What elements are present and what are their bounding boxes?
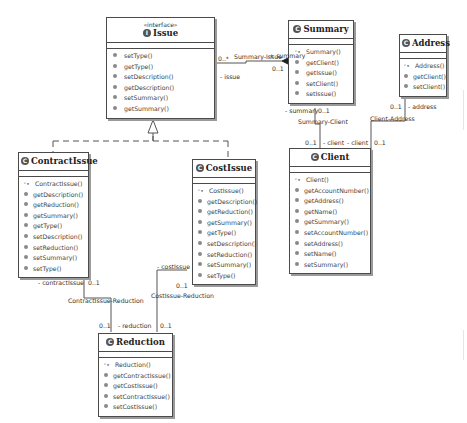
public-method-icon <box>24 202 28 206</box>
class-costissue[interactable]: CCostIssue ᶜ•CostIssue() getDescription(… <box>192 159 256 285</box>
public-method-icon <box>198 209 202 213</box>
operations-compartment: ᶜ•CostIssue() getDescription() getReduct… <box>193 184 255 284</box>
class-contractissue[interactable]: CContractIssue ᶜ•ContractIssue() getDesc… <box>18 152 89 278</box>
constructor: ᶜ•ContractIssue() <box>24 179 88 190</box>
operation: setClient() <box>295 79 353 90</box>
summary-client-client-mult: 0..1 <box>305 139 317 146</box>
operation: setSummary() <box>113 93 214 104</box>
public-method-icon <box>198 230 202 234</box>
contractissue-reduction-reduction-mult: 0..1 <box>99 322 111 329</box>
public-method-icon <box>113 85 117 89</box>
client-address-address-role: - address <box>408 103 437 110</box>
operation: setClient() <box>404 82 446 93</box>
public-method-icon <box>24 213 28 217</box>
class-badge-icon: C <box>311 153 319 161</box>
costissue-role-label: - costIssue <box>157 263 190 270</box>
public-method-icon <box>24 245 28 249</box>
operation: getAddress() <box>295 196 370 207</box>
class-client-header: CClient <box>290 149 370 167</box>
operation: setSummary() <box>24 253 88 264</box>
operation: getDescription() <box>24 190 88 201</box>
operation: setReduction() <box>24 243 88 254</box>
public-method-icon <box>295 91 299 95</box>
public-method-icon <box>24 223 28 227</box>
public-method-icon <box>24 255 28 259</box>
operation: getDescription() <box>198 197 255 208</box>
constructor-icon: ᶜ• <box>404 61 410 72</box>
class-name: CCostIssue <box>195 163 253 174</box>
public-method-icon <box>104 383 108 387</box>
public-method-icon <box>198 273 202 277</box>
class-name: CSummary <box>291 24 351 35</box>
class-client[interactable]: CClient ᶜ•Client() getAccountNumber() ge… <box>289 148 371 274</box>
public-method-icon <box>295 60 299 64</box>
operations-compartment: ᶜ•ContractIssue() getDescription() getRe… <box>19 177 88 277</box>
class-contractissue-header: CContractIssue <box>19 153 88 171</box>
operation: setContractIssue() <box>104 392 172 403</box>
association-name-costissue-reduction: CostIssue-Reduction <box>151 292 214 299</box>
edge-artifact <box>463 330 464 360</box>
operation: getSummary() <box>295 217 370 228</box>
public-method-icon <box>24 192 28 196</box>
class-summary[interactable]: CSummary ᶜ•Summary() getClient() getIssu… <box>288 20 354 104</box>
public-method-icon <box>404 74 408 78</box>
public-method-icon <box>295 70 299 74</box>
realization-arrowhead-icon <box>148 120 158 133</box>
operation: setType() <box>113 51 214 62</box>
public-method-icon <box>404 84 408 88</box>
contractissue-role-label: - contractIssue <box>38 279 84 286</box>
class-badge-icon: C <box>196 164 204 172</box>
operation: getSummary() <box>24 211 88 222</box>
constructor: ᶜ•Address() <box>404 61 446 72</box>
constructor: ᶜ•Client() <box>295 175 370 186</box>
costissue-mult-label: 0..1 <box>176 282 188 289</box>
operation: getSummary() <box>198 218 255 229</box>
operation: getSummary() <box>113 104 214 115</box>
operation: setCostIssue() <box>104 402 172 413</box>
class-issue[interactable]: «interface» IIssue setType() getType() s… <box>106 17 215 119</box>
uml-diagram-canvas: «interface» IIssue setType() getType() s… <box>0 0 467 423</box>
operation: getContractIssue() <box>104 371 172 382</box>
operation: getAccountNumber() <box>295 186 370 197</box>
operation: setReduction() <box>198 250 255 261</box>
class-address-header: CAddress <box>400 35 446 53</box>
class-name: CContractIssue <box>21 156 86 167</box>
operation: setSummary() <box>198 260 255 271</box>
summary-multiplicity-label: 0..1 <box>272 65 284 72</box>
class-name: IIssue <box>109 28 212 39</box>
class-reduction-header: CReduction <box>99 334 172 352</box>
public-method-icon <box>113 74 117 78</box>
client-address-client-mult: 0..1 <box>374 139 386 146</box>
association-name-contractissue-reduction: ContractIssue-Reduction <box>68 297 144 304</box>
public-method-icon <box>198 199 202 203</box>
summary-role-label: + summary <box>269 52 305 59</box>
class-name: CReduction <box>101 337 170 348</box>
public-method-icon <box>295 230 299 234</box>
public-method-icon <box>104 394 108 398</box>
edge-artifact <box>463 90 464 130</box>
issue-role-label: - issue <box>220 73 240 80</box>
operation: getType() <box>198 228 255 239</box>
operation: setDescription() <box>198 239 255 250</box>
operation: getName() <box>295 207 370 218</box>
public-method-icon <box>113 53 117 57</box>
operation: setDescription() <box>113 72 214 83</box>
operation: getType() <box>24 221 88 232</box>
operation: setAccountNumber() <box>295 228 370 239</box>
class-badge-icon: C <box>106 338 114 346</box>
operation: getReduction() <box>24 200 88 211</box>
operation: getClient() <box>295 58 353 69</box>
public-method-icon <box>295 219 299 223</box>
client-address-client-role: - client <box>347 139 368 146</box>
public-method-icon <box>24 234 28 238</box>
interface-badge-icon: I <box>143 29 151 37</box>
class-address[interactable]: CAddress ᶜ•Address() getClient() setClie… <box>399 34 447 97</box>
client-address-address-mult: 0..1 <box>390 103 402 110</box>
public-method-icon <box>295 188 299 192</box>
reduction-role-label: - reduction <box>118 322 152 329</box>
public-method-icon <box>24 266 28 270</box>
constructor: ᶜ•CostIssue() <box>198 186 255 197</box>
operation: getReduction() <box>198 207 255 218</box>
class-reduction[interactable]: CReduction ᶜ•Reduction() getContractIssu… <box>98 333 173 417</box>
operation: setDescription() <box>24 232 88 243</box>
